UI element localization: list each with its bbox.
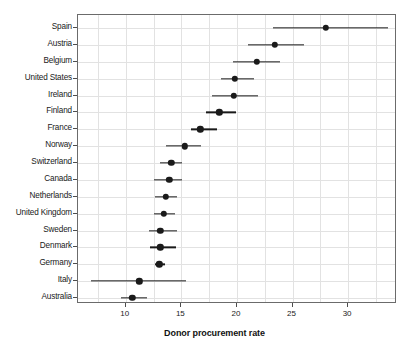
y-axis-tick-mark: [73, 78, 77, 79]
data-point-marker: [168, 160, 174, 166]
y-axis-tick-mark: [73, 27, 77, 28]
data-point-marker: [157, 227, 163, 233]
horizontal-gridline: [78, 231, 395, 232]
data-point-marker: [156, 261, 162, 267]
horizontal-gridline: [78, 214, 395, 215]
y-axis-label: Denmark: [40, 242, 72, 250]
horizontal-gridline: [78, 146, 395, 147]
y-axis-tick-mark: [73, 179, 77, 180]
data-point-marker: [129, 295, 135, 301]
confidence-interval-line: [191, 129, 217, 130]
data-point-marker: [136, 278, 142, 284]
horizontal-gridline: [78, 197, 395, 198]
y-axis-label: United Kingdom: [16, 209, 72, 217]
vertical-gridline: [293, 15, 294, 302]
data-point-marker: [216, 109, 222, 115]
y-axis-label: Australia: [41, 293, 72, 301]
y-axis-tick-mark: [73, 246, 77, 247]
y-axis-label: Finland: [46, 107, 72, 115]
vertical-gridline: [376, 15, 377, 302]
x-axis-tick-mark: [292, 303, 293, 307]
y-axis-category-labels: SpainAustriaBelgiumUnited StatesIrelandF…: [0, 0, 72, 352]
horizontal-gridline: [78, 247, 395, 248]
y-axis-label: Norway: [45, 141, 72, 149]
y-axis-tick-mark: [73, 128, 77, 129]
x-axis-title: Donor procurement rate: [164, 328, 265, 338]
plot-area: [77, 14, 396, 303]
y-axis-label: Germany: [39, 259, 72, 267]
vertical-gridline: [320, 15, 321, 302]
horizontal-gridline: [78, 163, 395, 164]
x-axis-tick-label: 20: [231, 309, 240, 318]
data-point-marker: [254, 59, 260, 65]
y-axis-label: France: [47, 124, 72, 132]
vertical-gridline: [348, 15, 349, 302]
y-axis-tick-mark: [73, 263, 77, 264]
vertical-gridline: [209, 15, 210, 302]
data-point-marker: [323, 25, 329, 31]
x-axis-tick-mark: [180, 303, 181, 307]
y-axis-tick-mark: [73, 162, 77, 163]
y-axis-label: Spain: [52, 23, 72, 31]
y-axis-label: Sweden: [43, 225, 72, 233]
vertical-gridline: [98, 15, 99, 302]
y-axis-label: Austria: [48, 40, 72, 48]
data-point-marker: [157, 244, 163, 250]
y-axis-label: Switzerland: [31, 158, 72, 166]
y-axis-tick-mark: [73, 61, 77, 62]
dot-plot-figure: SpainAustriaBelgiumUnited StatesIrelandF…: [0, 0, 414, 352]
data-point-marker: [197, 126, 203, 132]
x-axis-tick-mark: [125, 303, 126, 307]
x-axis-tick-label: 30: [343, 309, 352, 318]
y-axis-label: Netherlands: [30, 192, 73, 200]
y-axis-tick-mark: [73, 297, 77, 298]
data-point-marker: [163, 194, 169, 200]
y-axis-label: Italy: [58, 276, 72, 284]
horizontal-gridline: [78, 264, 395, 265]
x-axis-tick-label: 15: [176, 309, 185, 318]
y-axis-tick-mark: [73, 196, 77, 197]
y-axis-label: United States: [25, 74, 72, 82]
y-axis-tick-mark: [73, 44, 77, 45]
y-axis-label: Ireland: [48, 90, 72, 98]
vertical-gridline: [265, 15, 266, 302]
data-point-marker: [272, 42, 278, 48]
horizontal-gridline: [78, 112, 395, 113]
confidence-interval-line: [273, 27, 389, 28]
vertical-gridline: [237, 15, 238, 302]
data-point-marker: [230, 92, 236, 98]
x-axis-tick-mark: [236, 303, 237, 307]
y-axis-tick-mark: [73, 145, 77, 146]
data-point-marker: [166, 177, 172, 183]
x-axis-tick-mark: [347, 303, 348, 307]
horizontal-gridline: [78, 129, 395, 130]
y-axis-tick-mark: [73, 230, 77, 231]
y-axis-tick-mark: [73, 95, 77, 96]
y-axis-tick-mark: [73, 213, 77, 214]
y-axis-label: Canada: [44, 175, 72, 183]
vertical-gridline: [154, 15, 155, 302]
data-point-marker: [160, 210, 166, 216]
y-axis-tick-mark: [73, 280, 77, 281]
x-axis-tick-label: 25: [287, 309, 296, 318]
data-point-marker: [181, 143, 187, 149]
vertical-gridline: [181, 15, 182, 302]
y-axis-tick-mark: [73, 111, 77, 112]
x-axis-tick-label: 10: [120, 309, 129, 318]
horizontal-gridline: [78, 180, 395, 181]
vertical-gridline: [126, 15, 127, 302]
horizontal-gridline: [78, 45, 395, 46]
y-axis-label: Belgium: [43, 57, 72, 65]
